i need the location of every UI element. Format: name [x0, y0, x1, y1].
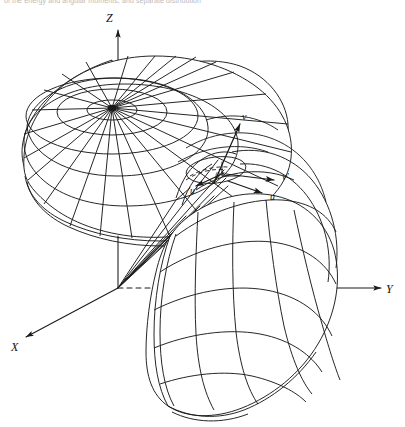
angle-label-beta: β — [214, 170, 220, 180]
axis-label-y: Y — [386, 282, 394, 296]
vector-label-v-prime: v′ — [282, 171, 289, 182]
vector-label-u: u — [270, 191, 275, 202]
polar-pole-marker — [108, 105, 117, 111]
x-axis-line — [26, 288, 118, 337]
axis-label-z: Z — [106, 11, 113, 25]
vector-label-u-prime: u′ — [190, 185, 198, 196]
diagram-canvas: Z Y X v v′ u u′ β — [0, 0, 405, 427]
vector-label-v: v — [242, 111, 247, 122]
axis-label-x: X — [10, 340, 19, 354]
figure-root: of the energy and angular moments, and s… — [0, 0, 405, 427]
